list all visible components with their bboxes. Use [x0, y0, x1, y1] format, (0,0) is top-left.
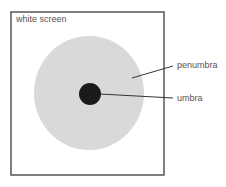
umbra-region [79, 83, 101, 105]
shadow-diagram: white screen penumbra umbra [0, 0, 226, 187]
umbra-label: umbra [177, 93, 203, 103]
penumbra-label: penumbra [177, 60, 218, 70]
white-screen-label: white screen [16, 14, 67, 24]
